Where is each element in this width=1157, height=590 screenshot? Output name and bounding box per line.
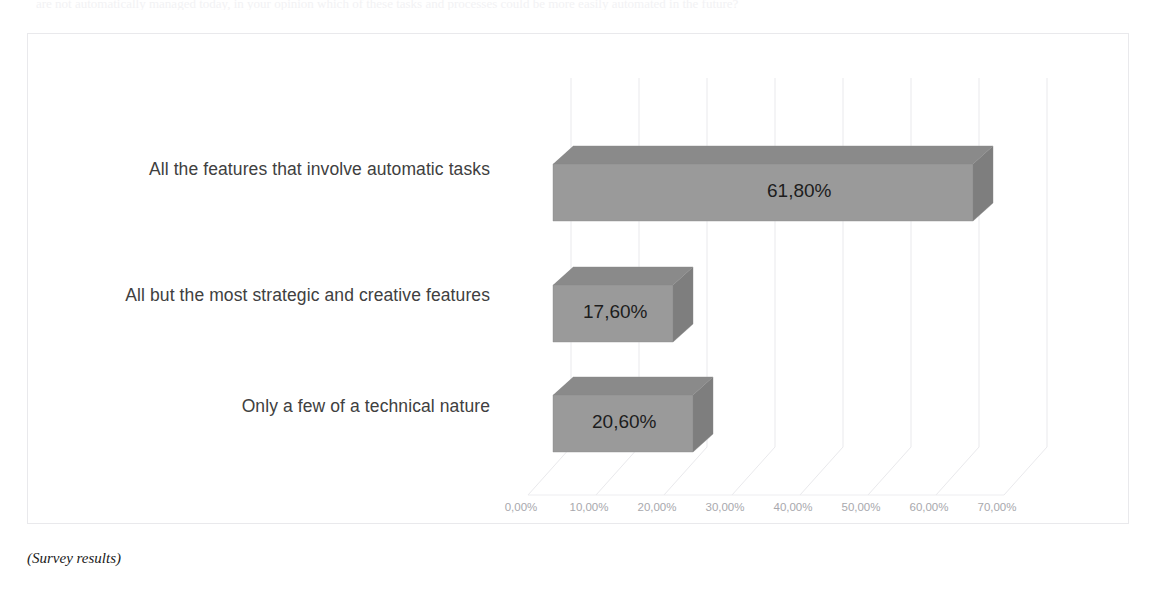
- x-tick-label-0: 0,00%: [494, 501, 548, 513]
- bar-value-label-0: 61,80%: [767, 180, 831, 202]
- figure-caption: (Survey results): [27, 550, 121, 567]
- category-label-1: All but the most strategic and creative …: [20, 285, 490, 306]
- plot-area: 61,80% 17,60%: [28, 34, 1130, 525]
- chart-container: 61,80% 17,60%: [27, 33, 1129, 524]
- x-tick-label-3: 30,00%: [698, 501, 752, 513]
- x-tick-label-7: 70,00%: [970, 501, 1024, 513]
- x-tick-label-1: 10,00%: [562, 501, 616, 513]
- bar-value-label-2: 20,60%: [592, 411, 656, 433]
- clipped-header-text: are not automatically managed today, in …: [36, 0, 1126, 10]
- x-tick-label-5: 50,00%: [834, 501, 888, 513]
- x-tick-label-2: 20,00%: [630, 501, 684, 513]
- category-label-2: Only a few of a technical nature: [20, 396, 490, 417]
- bar-3d-all-but-strategic[interactable]: 17,60%: [552, 261, 716, 361]
- bar-value-label-1: 17,60%: [583, 301, 647, 323]
- bar-3d-all-automatic-tasks[interactable]: 61,80%: [552, 140, 1016, 240]
- x-tick-label-6: 60,00%: [902, 501, 956, 513]
- x-tick-label-4: 40,00%: [766, 501, 820, 513]
- bar-3d-only-technical[interactable]: 20,60%: [552, 371, 736, 471]
- category-label-0: All the features that involve automatic …: [20, 159, 490, 180]
